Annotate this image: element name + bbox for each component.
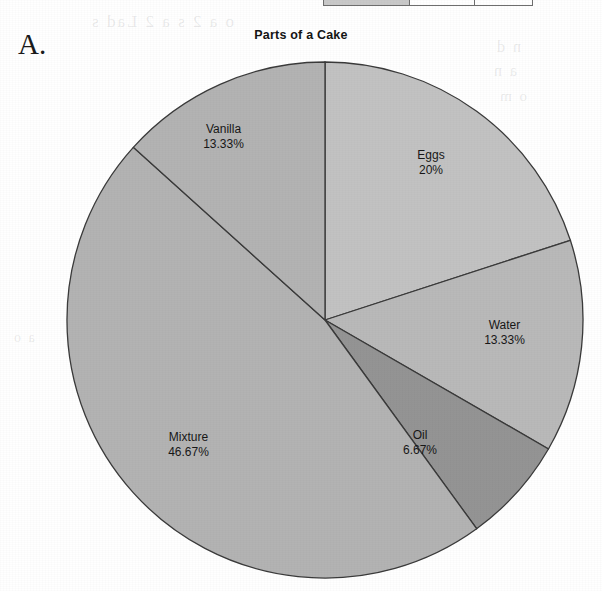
- slice-label-water: Water 13.33%: [442, 318, 567, 348]
- slice-label-name: Eggs: [371, 148, 491, 163]
- slice-label-name: Vanilla: [161, 122, 286, 137]
- slice-label-value: 20%: [371, 163, 491, 178]
- slice-label-value: 13.33%: [442, 333, 567, 348]
- slice-label-vanilla: Vanilla 13.33%: [161, 122, 286, 152]
- slice-label-value: 13.33%: [161, 137, 286, 152]
- slice-label-value: 46.67%: [126, 445, 251, 460]
- chart-title: Parts of a Cake: [0, 28, 602, 42]
- pie-chart: [0, 0, 602, 591]
- slice-label-name: Water: [442, 318, 567, 333]
- slice-label-mixture: Mixture 46.67%: [126, 430, 251, 460]
- slice-label-value: 6.67%: [365, 443, 475, 458]
- slice-label-oil: Oil 6.67%: [365, 428, 475, 458]
- slice-label-name: Mixture: [126, 430, 251, 445]
- pie-chart-svg: [0, 0, 602, 591]
- slice-label-name: Oil: [365, 428, 475, 443]
- slice-label-eggs: Eggs 20%: [371, 148, 491, 178]
